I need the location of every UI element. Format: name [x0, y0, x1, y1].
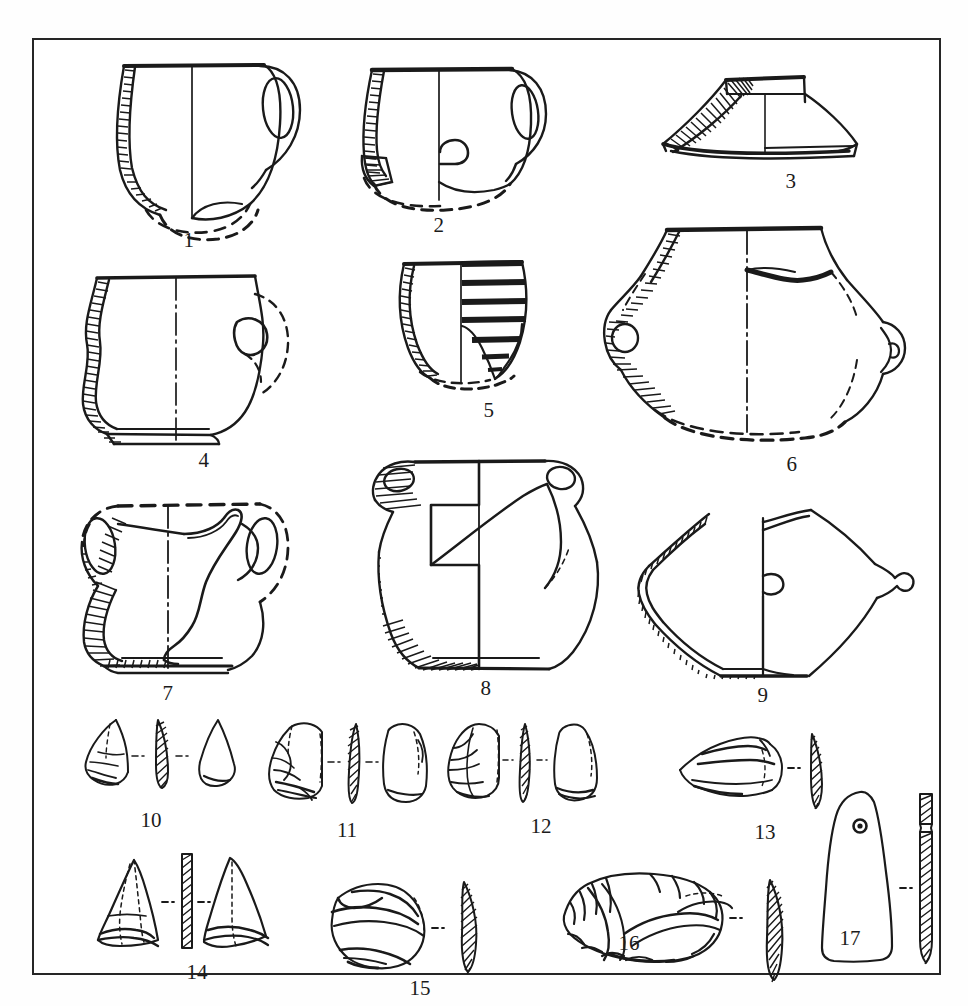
figure-9-carinated-bowl: 9: [629, 492, 929, 702]
figure-number-12: 12: [531, 816, 552, 837]
figure-number-2: 2: [434, 215, 445, 236]
figure-number-13: 13: [755, 822, 776, 843]
illustration-plate: 1: [0, 0, 968, 1006]
figure-number-14: 14: [187, 962, 208, 983]
figure-4-lugged-pot: 4: [59, 262, 294, 462]
figure-number-11: 11: [337, 820, 357, 841]
plate-frame: 1: [32, 38, 941, 975]
figure-16-cross-section: [752, 876, 792, 986]
figure-number-1: 1: [184, 230, 195, 251]
figure-number-10: 10: [141, 810, 162, 831]
figure-10-flake-point: 10: [76, 710, 241, 810]
figure-15-discoidal-scraper: 15: [324, 878, 499, 978]
figure-number-15: 15: [410, 978, 431, 999]
figure-number-3: 3: [786, 171, 797, 192]
figure-number-5: 5: [484, 400, 495, 421]
figure-number-7: 7: [163, 683, 174, 704]
figure-3-pedestal-foot: 3: [649, 58, 914, 188]
figure-14-triangular-arrowhead: 14: [86, 852, 276, 962]
figure-1-handled-cup: 1: [82, 52, 312, 242]
figure-17-perforated-adze: [804, 780, 944, 980]
figure-number-6: 6: [787, 454, 798, 475]
figure-11-retouched-flake: 11: [262, 712, 437, 817]
figure-2-handled-cup: 2: [334, 60, 559, 240]
figure-number-9: 9: [758, 685, 769, 706]
figure-16-retouched-core-tool: [554, 860, 774, 980]
figure-number-17: 17: [840, 928, 861, 949]
figure-number-4: 4: [199, 450, 210, 471]
figure-number-8: 8: [481, 678, 492, 699]
figure-12-blade-flake: 12: [439, 712, 609, 812]
figure-5-decorated-beaker: 5: [376, 252, 546, 412]
figure-6-amphora-jar: 6: [599, 210, 919, 470]
figure-7-two-handled-cup: 7: [56, 490, 316, 700]
figure-number-16: 16: [619, 933, 640, 954]
figure-8-biconical-jar: 8: [369, 420, 639, 700]
